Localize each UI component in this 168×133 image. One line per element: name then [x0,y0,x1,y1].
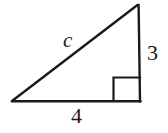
right-angle-marker-icon [114,78,141,102]
triangle-drawing [0,0,168,133]
hypotenuse-line [12,5,138,101]
horizontal-leg-label: 4 [71,105,82,127]
vertical-leg-line [139,5,140,102]
right-triangle-figure: c 3 4 [0,0,168,133]
vertical-leg-label: 3 [147,42,158,64]
hypotenuse-label: c [63,30,72,51]
